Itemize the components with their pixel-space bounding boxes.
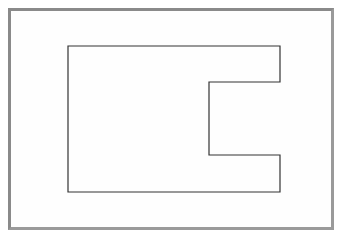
- c-shape-outline: [68, 46, 280, 192]
- diagram-canvas: [0, 0, 344, 238]
